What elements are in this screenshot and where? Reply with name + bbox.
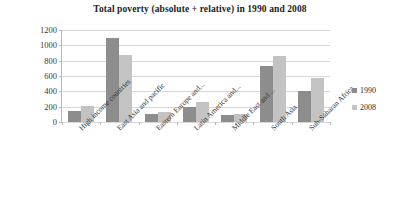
x-tick-mark <box>292 122 293 125</box>
legend-label-2008: 2008 <box>360 103 376 112</box>
x-tick-mark <box>253 122 254 125</box>
y-axis-tick-label: 0 <box>53 117 57 127</box>
x-tick-mark <box>215 122 216 125</box>
bar-1990 <box>68 111 81 123</box>
y-axis-tick-label: 1200 <box>40 25 57 35</box>
chart-title: Total poverty (absolute + relative) in 1… <box>0 4 400 14</box>
bar-1990 <box>183 107 196 122</box>
bar-chart: Total poverty (absolute + relative) in 1… <box>0 0 400 209</box>
bar-1990 <box>106 38 119 122</box>
x-tick-mark <box>330 122 331 125</box>
bar-1990 <box>298 91 311 122</box>
legend-swatch-1990 <box>352 88 357 93</box>
legend-swatch-2008 <box>352 105 357 110</box>
legend-item-2008: 2008 <box>352 103 376 112</box>
y-axis-tick-label: 1000 <box>40 40 57 50</box>
x-tick-mark <box>177 122 178 125</box>
bar-1990 <box>221 115 234 122</box>
y-axis-tick-label: 800 <box>44 56 57 66</box>
bar-1990 <box>145 114 158 122</box>
legend-item-1990: 1990 <box>352 86 376 95</box>
x-tick-mark <box>100 122 101 125</box>
y-axis-tick-label: 200 <box>44 102 57 112</box>
x-tick-mark <box>139 122 140 125</box>
y-axis-tick-label: 400 <box>44 86 57 96</box>
x-tick-mark <box>62 122 63 125</box>
y-axis-tick-label: 600 <box>44 71 57 81</box>
legend-label-1990: 1990 <box>360 86 376 95</box>
chart-legend: 1990 2008 <box>352 86 376 120</box>
